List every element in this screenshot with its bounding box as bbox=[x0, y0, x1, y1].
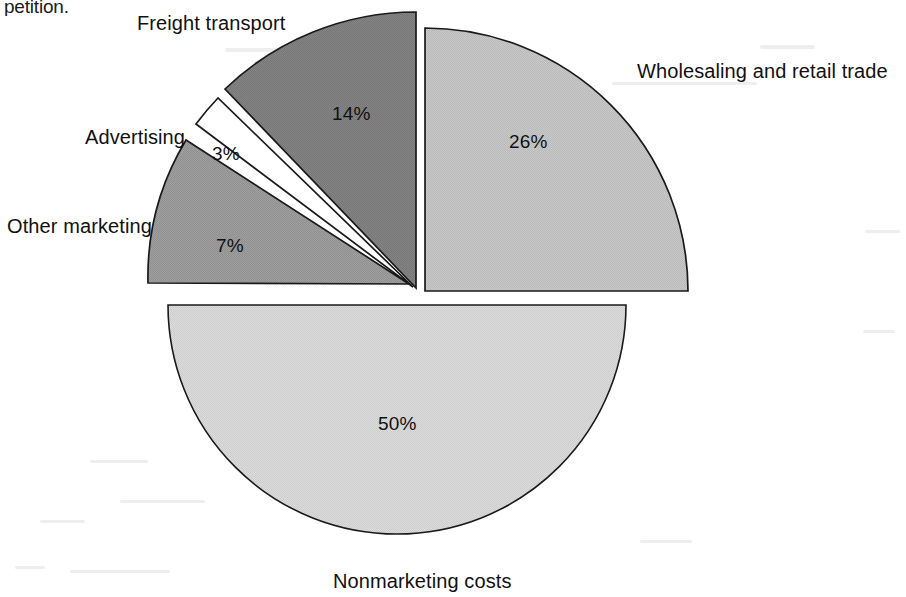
slice-label-nonmarketing-costs: Nonmarketing costs bbox=[333, 570, 512, 593]
slice-label-advertising: Advertising bbox=[85, 126, 185, 149]
pie-chart-canvas bbox=[0, 0, 906, 597]
slice-value-advertising: 3% bbox=[212, 143, 240, 165]
slice-value-freight-transport: 14% bbox=[332, 103, 371, 125]
slice-value-other-marketing: 7% bbox=[216, 235, 244, 257]
slice-label-freight-transport: Freight transport bbox=[137, 12, 285, 35]
pie-chart-figure: petition. bbox=[0, 0, 906, 597]
slice-value-wholesaling-and-retail-trade: 26% bbox=[509, 131, 548, 153]
slice-label-other-marketing: Other marketing bbox=[7, 215, 152, 238]
slice-label-wholesaling-and-retail-trade: Wholesaling and retail trade bbox=[637, 60, 888, 83]
slice-value-nonmarketing-costs: 50% bbox=[378, 413, 417, 435]
